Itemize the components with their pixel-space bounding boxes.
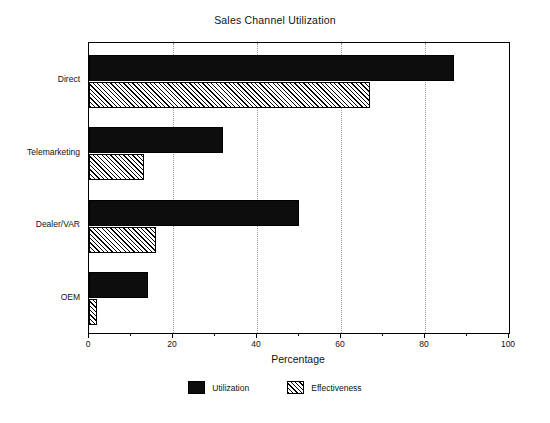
x-tick-label-40: 40	[236, 339, 276, 349]
chart-title: Sales Channel Utilization	[0, 14, 550, 26]
x-tick-label-60: 60	[320, 339, 360, 349]
y-axis-label-oem: OEM	[0, 292, 80, 302]
x-axis-title: Percentage	[88, 353, 508, 365]
legend-label-utilization: Utilization	[212, 383, 249, 393]
x-tick-label-0: 0	[68, 339, 108, 349]
plot-area	[88, 42, 510, 334]
x-tick-label-80: 80	[404, 339, 444, 349]
y-axis-label-dealer-var: Dealer/VAR	[0, 219, 80, 229]
legend-swatch-effectiveness	[287, 381, 304, 394]
y-axis-label-direct: Direct	[0, 74, 80, 84]
legend-item-effectiveness[interactable]: Effectiveness	[287, 381, 361, 394]
legend-item-utilization[interactable]: Utilization	[188, 381, 249, 394]
x-tick-minor-90	[466, 333, 467, 336]
x-tick-label-100: 100	[488, 339, 528, 349]
bar-effectiveness-dealer-var	[89, 227, 156, 253]
legend-label-effectiveness: Effectiveness	[311, 383, 361, 393]
bar-effectiveness-direct	[89, 82, 370, 108]
legend: UtilizationEffectiveness	[0, 381, 550, 394]
bar-utilization-direct	[89, 55, 454, 81]
bar-effectiveness-telemarketing	[89, 154, 144, 180]
x-tick-60	[340, 333, 341, 338]
bar-utilization-dealer-var	[89, 200, 299, 226]
bar-effectiveness-oem	[89, 299, 97, 325]
legend-swatch-utilization	[188, 381, 205, 394]
x-tick-80	[424, 333, 425, 338]
x-tick-0	[88, 333, 89, 338]
bar-chart: Sales Channel Utilization DirectTelemark…	[0, 0, 550, 423]
x-tick-minor-70	[382, 333, 383, 336]
x-tick-label-20: 20	[152, 339, 192, 349]
bar-utilization-oem	[89, 272, 148, 298]
x-tick-minor-50	[298, 333, 299, 336]
x-tick-20	[172, 333, 173, 338]
x-tick-minor-10	[130, 333, 131, 336]
x-tick-minor-30	[214, 333, 215, 336]
x-tick-100	[508, 333, 509, 338]
y-axis-label-telemarketing: Telemarketing	[0, 147, 80, 157]
x-tick-40	[256, 333, 257, 338]
gridline-80	[425, 43, 426, 333]
bar-utilization-telemarketing	[89, 127, 223, 153]
